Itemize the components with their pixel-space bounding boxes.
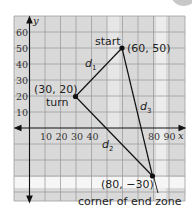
y-tick: 50: [16, 43, 28, 54]
corner-circle-decoration: [170, 0, 192, 6]
turn-coord-label: (30, 20): [34, 83, 78, 96]
corner-label: corner of end zone: [78, 195, 182, 208]
end-zone-band: [14, 177, 185, 188]
corner-coord-label: (80, −30): [101, 178, 154, 191]
y-tick: 10: [16, 107, 28, 118]
start-label: start: [95, 35, 121, 48]
x-tick: 90: [164, 131, 176, 142]
x-tick: 10: [40, 131, 52, 142]
y-tick: 30: [16, 75, 28, 86]
turn-label: turn: [46, 96, 69, 109]
x-tick: 30: [71, 131, 83, 142]
x-axis-label: x: [178, 130, 184, 141]
y-tick: 40: [16, 59, 28, 70]
coordinate-diagram: y x 60 50 40 30 20 10 10 20 30 40 80 90 …: [0, 0, 192, 220]
start-coord-label: (60, 50): [127, 42, 171, 55]
y-axis-label: y: [32, 15, 39, 26]
x-tick: 80: [148, 131, 160, 142]
field-stripe: [107, 16, 119, 128]
y-tick: 60: [16, 27, 28, 38]
x-tick: 20: [56, 131, 68, 142]
y-tick: 20: [16, 91, 28, 102]
x-tick: 40: [87, 131, 99, 142]
